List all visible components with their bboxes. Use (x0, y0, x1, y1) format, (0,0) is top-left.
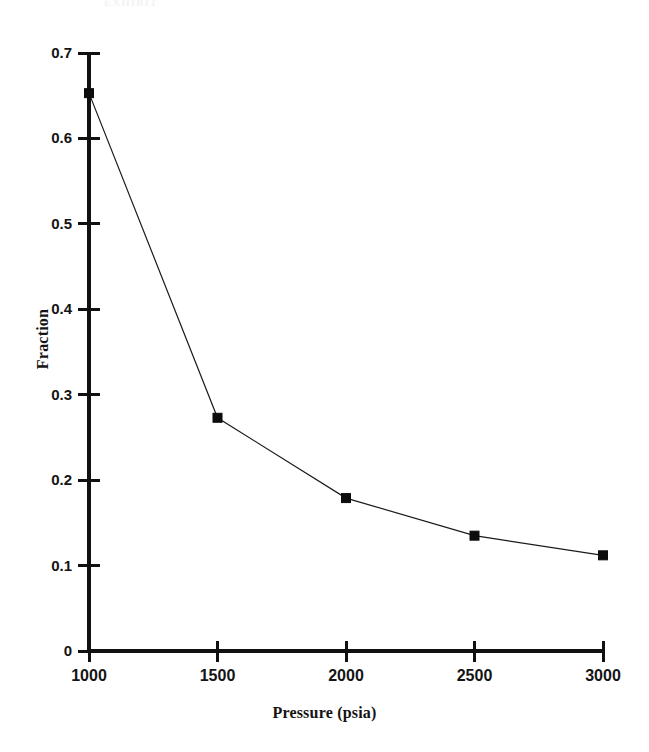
data-point-marker (470, 531, 479, 540)
x-axis-title: Pressure (psia) (0, 704, 649, 722)
plot-area (0, 0, 649, 752)
data-point-marker (599, 551, 608, 560)
series-line-fraction (89, 93, 603, 555)
series-markers-fraction (85, 89, 608, 560)
data-point-marker (342, 494, 351, 503)
data-point-marker (213, 413, 222, 422)
data-point-marker (85, 89, 94, 98)
chart-figure: EXHIBIT 00.10.20.30.40.50.60.7 100015002… (0, 0, 649, 752)
y-axis-title: Fraction (34, 284, 52, 394)
